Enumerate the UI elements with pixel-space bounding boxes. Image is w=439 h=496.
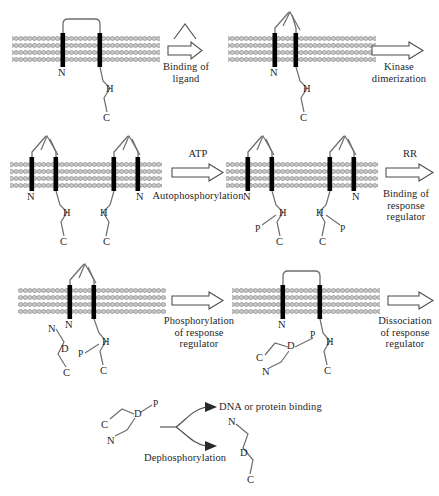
atom-label-C: C xyxy=(60,237,67,248)
transmembrane-helix-b2 xyxy=(352,157,357,191)
label-binding-of-response-regulator: Binding of response regulator xyxy=(374,188,438,223)
transmembrane-helix-a1 xyxy=(246,157,251,191)
arrow-autophosphorylation xyxy=(172,164,223,181)
panel-2-monomer-ligand-bound xyxy=(228,12,376,112)
atom-label-H: H xyxy=(63,208,71,219)
atom-label-C: C xyxy=(256,353,263,364)
atom-label-N: N xyxy=(228,417,236,428)
phospho-bond-b xyxy=(326,215,340,225)
atom-label-N: N xyxy=(27,192,35,203)
atom-label-C: C xyxy=(103,113,110,124)
periplasmic-arm-a-left xyxy=(32,136,46,160)
atom-label-C: C xyxy=(300,113,307,124)
periplasmic-loop xyxy=(63,19,100,36)
atom-label-N: N xyxy=(48,324,56,335)
transmembrane-helix-a2 xyxy=(54,157,59,191)
panel-1-monomer-unbound xyxy=(12,19,160,112)
atom-label-C: C xyxy=(103,237,110,248)
periplasmic-arm-left xyxy=(275,12,289,36)
response-regulator-chain xyxy=(265,343,288,355)
atom-label-C: C xyxy=(100,366,107,377)
arrowhead xyxy=(205,402,217,412)
periplasmic-arm-b-left xyxy=(330,136,344,160)
label-phosphorylation-of-response-regulator: Phosphorylation of response regulator xyxy=(148,315,250,350)
arrowhead xyxy=(205,441,217,451)
periplasmic-arm-a-left xyxy=(248,136,262,160)
transmembrane-helix-b2 xyxy=(136,157,141,191)
label-kinase-dimerization: Kinase dimerization xyxy=(361,61,437,84)
atom-label-N: N xyxy=(270,68,278,79)
atom-label-N: N xyxy=(107,436,115,447)
block-arrow xyxy=(372,42,423,59)
atom-label-H: H xyxy=(100,208,108,219)
periplasmic-arm-b-left xyxy=(114,136,128,160)
panel-5-rr-bound xyxy=(18,264,166,367)
atom-label-C: C xyxy=(63,368,70,379)
arrow-binding-of-response-regulator xyxy=(386,164,433,181)
label-autophosphorylation: Autophosphorylation xyxy=(143,190,253,202)
curved-arrow-shaft xyxy=(176,407,206,427)
atom-label-C: C xyxy=(101,420,108,431)
atom-label-P: P xyxy=(255,224,260,235)
atom-label-H: H xyxy=(326,337,334,348)
panel-6-rr-phosphorylated xyxy=(232,271,380,368)
arrow-dna-or-protein-binding xyxy=(176,402,217,427)
panel-7-free-phospho-rr xyxy=(110,405,152,436)
atom-label-C: C xyxy=(247,475,254,486)
transmembrane-helix-1 xyxy=(68,285,73,319)
atom-label-N: N xyxy=(65,320,73,331)
phospho-bond xyxy=(85,344,99,353)
response-regulator-n-branch xyxy=(115,418,135,436)
block-arrow xyxy=(172,292,223,309)
atom-label-P: P xyxy=(310,330,315,341)
periplasmic-arm-left xyxy=(70,264,84,288)
ligand-glyph xyxy=(174,24,196,39)
label-dephosphorylation: Dephosphorylation xyxy=(144,452,256,464)
transmembrane-helix-a1 xyxy=(30,157,35,191)
atom-label-D: D xyxy=(287,341,295,352)
label-atp: ATP xyxy=(178,148,218,160)
block-arrow xyxy=(172,164,223,181)
transmembrane-helix-2 xyxy=(98,33,103,67)
arrow-binding-of-ligand xyxy=(168,24,202,59)
transmembrane-helix-b1 xyxy=(328,157,333,191)
response-regulator-chain xyxy=(110,409,134,419)
lipid-bilayer xyxy=(228,36,376,64)
atom-label-N: N xyxy=(278,320,286,331)
transmembrane-helix-2 xyxy=(92,285,97,319)
transmembrane-helix-2 xyxy=(318,285,323,319)
transmembrane-helix-a2 xyxy=(270,157,275,191)
label-dna-or-protein-binding: DNA or protein binding xyxy=(219,401,379,413)
atom-label-P: P xyxy=(340,224,345,235)
block-arrow xyxy=(388,292,433,309)
atom-label-P: P xyxy=(78,349,83,360)
atom-label-N: N xyxy=(352,192,360,203)
atom-label-C: C xyxy=(324,366,331,377)
atom-label-C: C xyxy=(276,237,283,248)
lipid-bilayer xyxy=(232,288,380,316)
atom-label-H: H xyxy=(106,84,114,95)
label-rr: RR xyxy=(390,148,430,160)
arrow-phosphorylation-of-response-regulator xyxy=(172,292,223,309)
atom-label-N: N xyxy=(262,367,270,378)
phospho-bond xyxy=(141,405,152,412)
figure-canvas: N H C N H C N H C C H N N H P C C H P N … xyxy=(0,0,439,496)
arrow-dephosphorylation xyxy=(176,427,217,451)
atom-label-C: C xyxy=(319,237,326,248)
panel-4-autophosphorylated-dimer xyxy=(226,136,378,236)
transmembrane-helix-2 xyxy=(294,33,299,67)
transmembrane-helix-1 xyxy=(281,285,286,319)
atom-label-P: P xyxy=(153,399,158,410)
atom-label-H: H xyxy=(316,208,324,219)
atom-label-H: H xyxy=(279,208,287,219)
transmembrane-helix-1 xyxy=(273,33,278,67)
atom-label-H: H xyxy=(102,337,110,348)
arrow-dissociation-of-response-regulator xyxy=(388,292,433,309)
phospho-bond-a xyxy=(262,215,276,225)
periplasmic-loop xyxy=(283,271,320,288)
panel-3-dimer xyxy=(10,136,162,236)
atom-label-N: N xyxy=(58,68,66,79)
lipid-bilayer xyxy=(12,36,160,64)
atom-label-D: D xyxy=(134,409,142,420)
transmembrane-helix-b1 xyxy=(112,157,117,191)
